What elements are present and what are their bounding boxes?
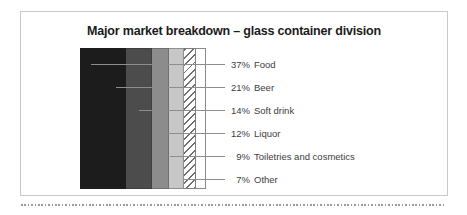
data-label-liquor: 12%Liquor: [227, 128, 280, 139]
leader-line-soft-drink: [139, 110, 225, 111]
data-label-other: 7%Other: [227, 174, 278, 185]
data-label-soft-drink-text: Soft drink: [254, 105, 294, 116]
data-label-soft-drink-percent: 14%: [227, 105, 250, 116]
data-label-beer: 21%Beer: [227, 82, 274, 93]
data-label-liquor-text: Liquor: [254, 128, 280, 139]
bar-segment-food[interactable]: [80, 48, 126, 189]
data-label-other-text: Other: [254, 174, 278, 185]
data-label-toiletries-and-cosmetics-text: Toiletries and cosmetics: [254, 151, 355, 162]
data-label-other-percent: 7%: [227, 174, 250, 185]
data-label-food-text: Food: [254, 59, 276, 70]
chart-figure-frame: Major market breakdown – glass container…: [20, 11, 448, 196]
bar-segment-beer[interactable]: [126, 48, 152, 189]
data-label-food: 37%Food: [227, 59, 276, 70]
data-label-soft-drink: 14%Soft drink: [227, 105, 294, 116]
bottom-dotted-rule: [21, 204, 446, 206]
leader-line-other: [183, 179, 225, 180]
bar-stack: [80, 48, 206, 189]
leader-line-toiletries-and-cosmetics: [170, 156, 225, 157]
data-label-food-percent: 37%: [227, 59, 250, 70]
data-label-beer-text: Beer: [254, 82, 274, 93]
data-label-liquor-percent: 12%: [227, 128, 250, 139]
diagonal-hatch-pattern: [184, 49, 195, 188]
leader-line-beer: [116, 87, 225, 88]
bar-segment-soft-drink[interactable]: [152, 48, 169, 189]
leader-line-food: [91, 64, 225, 65]
leader-line-liquor: [156, 133, 225, 134]
bar-segment-other[interactable]: [196, 48, 206, 189]
plot-area: 37%Food 21%Beer 14%Soft drink 12%Liquor …: [21, 12, 449, 197]
data-label-toiletries-and-cosmetics: 9%Toiletries and cosmetics: [227, 151, 355, 162]
bar-segment-liquor[interactable]: [169, 48, 184, 189]
data-label-toiletries-and-cosmetics-percent: 9%: [227, 151, 250, 162]
bar-segment-toiletries-and-cosmetics[interactable]: [184, 48, 196, 189]
data-label-beer-percent: 21%: [227, 82, 250, 93]
